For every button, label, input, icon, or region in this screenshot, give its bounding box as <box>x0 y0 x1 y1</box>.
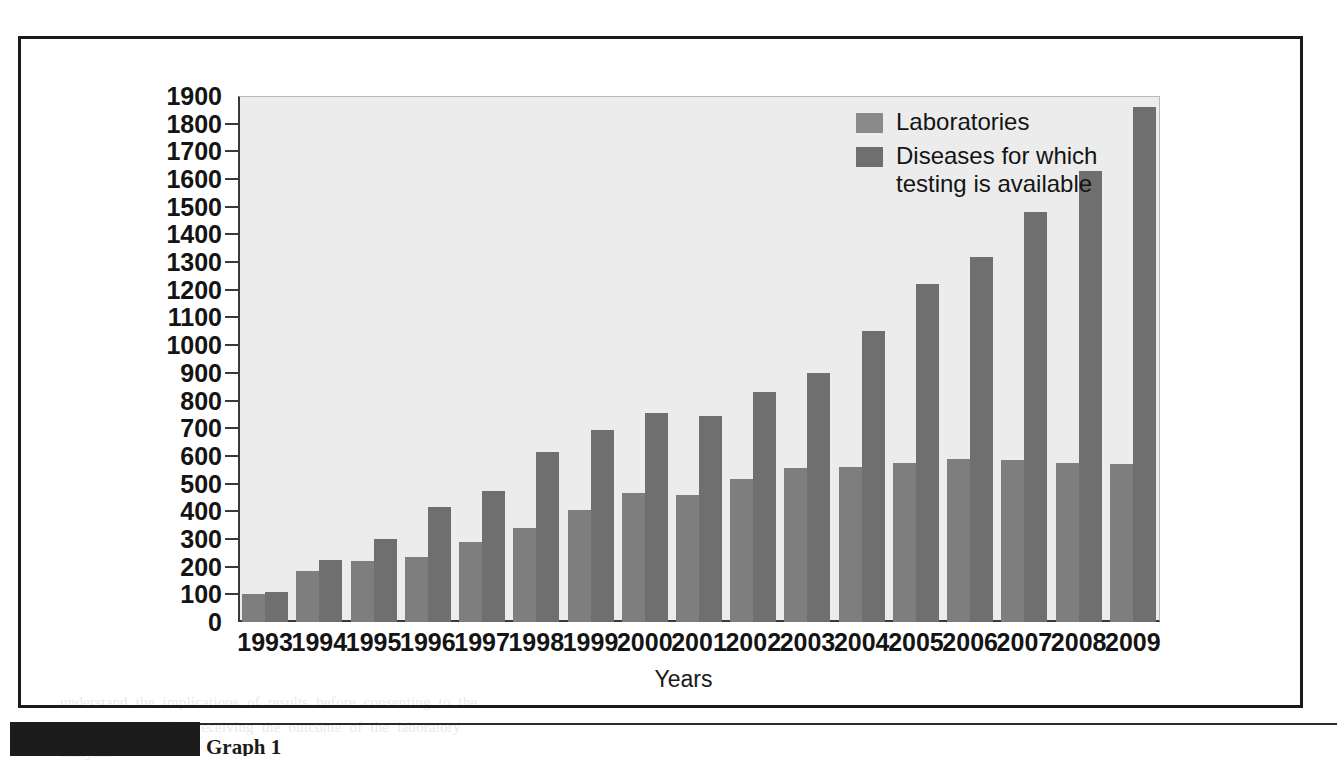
bar-laboratories-2009 <box>1110 464 1133 622</box>
legend-swatch-laboratories-icon <box>856 113 883 133</box>
y-axis-tick-label: 800 <box>0 386 222 415</box>
bar-diseases-1995 <box>374 539 397 622</box>
bar-diseases-2003 <box>807 373 830 622</box>
y-axis-tick-label: 1500 <box>0 192 222 221</box>
bar-laboratories-2005 <box>893 463 916 622</box>
y-axis-tick-mark <box>225 289 238 291</box>
y-axis-tick-label: 1300 <box>0 248 222 277</box>
legend-item-diseases: Diseases for which testing is available <box>856 142 1097 198</box>
y-axis-tick-label: 1100 <box>0 303 222 332</box>
y-axis-tick-mark <box>225 538 238 540</box>
caption-rule <box>200 723 1337 725</box>
y-axis-tick-mark <box>225 261 238 263</box>
y-axis-tick-mark <box>225 206 238 208</box>
bar-laboratories-1995 <box>351 561 374 622</box>
bar-diseases-1994 <box>319 560 342 622</box>
y-axis-tick-mark <box>225 372 238 374</box>
y-axis-tick-label: 1600 <box>0 165 222 194</box>
y-axis-tick-label: 1800 <box>0 109 222 138</box>
x-axis-tick-label: 2009 <box>1093 628 1173 657</box>
bar-diseases-2005 <box>916 284 939 622</box>
legend-swatch-diseases-icon <box>856 147 883 167</box>
y-axis-tick-label: 500 <box>0 469 222 498</box>
y-axis-tick-label: 900 <box>0 358 222 387</box>
legend-label-laboratories: Laboratories <box>896 108 1029 136</box>
bar-laboratories-1996 <box>405 557 428 622</box>
bar-diseases-2002 <box>753 392 776 622</box>
caption-text-sliver: Graph 1 <box>206 735 846 756</box>
bar-diseases-2000 <box>645 413 668 622</box>
bar-diseases-2001 <box>699 416 722 622</box>
y-axis-tick-mark <box>225 510 238 512</box>
chart-legend: Laboratories Diseases for which testing … <box>856 108 1097 204</box>
bar-diseases-2004 <box>862 331 885 622</box>
bar-diseases-1999 <box>591 430 614 622</box>
x-axis-title: Years <box>0 666 1337 693</box>
bar-diseases-1993 <box>265 592 288 622</box>
bar-laboratories-2004 <box>839 467 862 622</box>
bar-laboratories-2003 <box>784 468 807 622</box>
y-axis-tick-label: 700 <box>0 414 222 443</box>
bar-diseases-1997 <box>482 491 505 623</box>
bar-laboratories-2008 <box>1056 463 1079 622</box>
y-axis-tick-mark <box>225 427 238 429</box>
y-axis-tick-label: 200 <box>0 552 222 581</box>
y-axis-tick-mark <box>225 566 238 568</box>
y-axis-tick-label: 1000 <box>0 331 222 360</box>
y-axis-tick-mark <box>225 455 238 457</box>
y-axis-tick-mark <box>225 344 238 346</box>
y-axis-tick-label: 1700 <box>0 137 222 166</box>
y-axis-tick-mark <box>225 178 238 180</box>
y-axis-tick-mark <box>225 593 238 595</box>
bar-laboratories-2002 <box>730 479 753 622</box>
y-axis-tick-label: 100 <box>0 580 222 609</box>
bar-diseases-2006 <box>970 257 993 622</box>
bar-laboratories-1997 <box>459 542 482 622</box>
y-axis-tick-label: 600 <box>0 441 222 470</box>
y-axis-tick-label: 300 <box>0 524 222 553</box>
bar-laboratories-1998 <box>513 528 536 622</box>
bar-diseases-2007 <box>1024 212 1047 622</box>
y-axis-tick-mark <box>225 123 238 125</box>
bar-laboratories-2006 <box>947 459 970 622</box>
bar-diseases-2009 <box>1133 107 1156 622</box>
y-axis-tick-label: 1900 <box>0 82 222 111</box>
y-axis-tick-label: 0 <box>0 608 222 637</box>
y-axis-tick-label: 400 <box>0 497 222 526</box>
y-axis-tick-mark <box>225 316 238 318</box>
legend-item-laboratories: Laboratories <box>856 108 1097 136</box>
bar-laboratories-2000 <box>622 493 645 622</box>
bar-diseases-1998 <box>536 452 559 622</box>
y-axis-tick-label: 1200 <box>0 275 222 304</box>
bar-laboratories-2007 <box>1001 460 1024 622</box>
bar-laboratories-1999 <box>568 510 591 622</box>
bar-laboratories-1993 <box>242 594 265 622</box>
bar-laboratories-1994 <box>296 571 319 622</box>
y-axis-tick-mark <box>225 150 238 152</box>
bar-diseases-1996 <box>428 507 451 622</box>
bar-laboratories-2001 <box>676 495 699 622</box>
legend-label-diseases: Diseases for which testing is available <box>896 142 1097 198</box>
y-axis-tick-mark <box>225 400 238 402</box>
y-axis-tick-label: 1400 <box>0 220 222 249</box>
y-axis-tick-mark <box>225 483 238 485</box>
bar-diseases-2008 <box>1079 171 1102 622</box>
page-corner-block <box>10 722 200 756</box>
y-axis-tick-mark <box>225 233 238 235</box>
x-axis-title-label: Years <box>655 666 713 693</box>
